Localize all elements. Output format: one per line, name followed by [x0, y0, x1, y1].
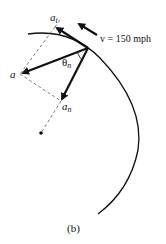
- label-a: a: [10, 68, 16, 80]
- label-theta-n: θn: [62, 56, 71, 70]
- construction-lines: [20, 20, 61, 133]
- velocity-label: v = 150 mph: [100, 33, 151, 44]
- center-of-curvature: [39, 131, 43, 135]
- label-a-t: at: [50, 11, 59, 25]
- acceleration-diagram: at a an θn v = 150 mph (b): [0, 0, 166, 244]
- theta-angle-arc: [77, 52, 82, 60]
- velocity-arrow: [79, 24, 97, 35]
- tangential-acceleration-vector: [57, 28, 88, 48]
- trajectory-arc: [28, 33, 139, 214]
- label-a-n: an: [62, 100, 72, 114]
- figure-caption: (b): [67, 222, 80, 235]
